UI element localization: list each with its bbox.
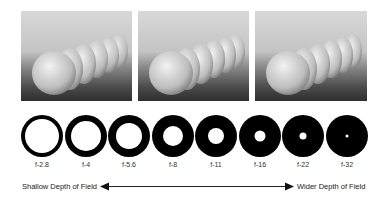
eggs-photo-wide <box>255 11 367 101</box>
aperture-icon-f11 <box>195 115 237 157</box>
wider-dof-label: Wider Depth of Field <box>297 182 365 191</box>
fstop-label: f-16 <box>238 161 282 168</box>
shallow-dof-label: Shallow Depth of Field <box>22 182 97 191</box>
eggs-photo-medium <box>138 11 249 101</box>
fstop-label: f-5.6 <box>107 161 151 168</box>
fstop-label: f-2.8 <box>20 161 64 168</box>
eggs-photo-shallow <box>21 11 132 101</box>
aperture-icon-f8 <box>152 115 194 157</box>
aperture-icon-f2-8 <box>21 115 63 157</box>
aperture-icon-f22 <box>282 115 324 157</box>
aperture-icon-f5-6 <box>108 115 150 157</box>
aperture-icon-f32 <box>326 115 368 157</box>
double-arrow-icon <box>100 182 294 191</box>
aperture-icon-f16 <box>239 115 281 157</box>
fstop-label: f-4 <box>64 161 108 168</box>
aperture-icon-f4 <box>65 115 107 157</box>
fstop-label: f-32 <box>325 161 369 168</box>
fstop-label: f-8 <box>151 161 195 168</box>
fstop-label: f-11 <box>194 161 238 168</box>
fstop-label: f-22 <box>281 161 325 168</box>
